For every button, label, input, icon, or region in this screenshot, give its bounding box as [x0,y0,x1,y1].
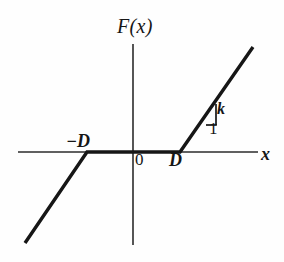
function-curve [25,47,253,243]
origin-label: 0 [135,151,144,168]
y-axis-label: F(x) [117,16,153,36]
negative-breakpoint-label: −D [66,132,90,150]
plot-canvas [0,0,284,262]
slope-run-label: 1 [209,120,218,137]
slope-rise-label: k [217,101,225,117]
function-plot-figure: F(x) x 0 D −D k 1 [0,0,284,262]
positive-breakpoint-label: D [169,151,182,169]
x-axis-label: x [261,145,270,163]
